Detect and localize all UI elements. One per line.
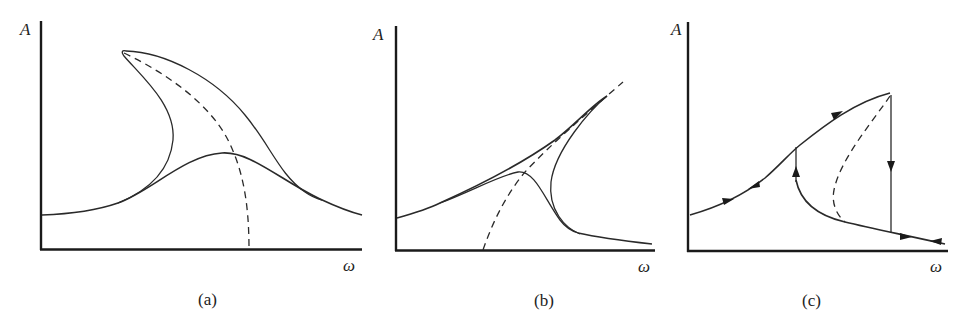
response-curve-inner-a [42, 153, 362, 215]
upper-branch-c [690, 93, 890, 215]
backbone-dashed-b [483, 82, 623, 250]
arrow-right-icon [722, 198, 734, 205]
y-axis-label-c: A [670, 20, 682, 39]
arrow-down-icon [887, 161, 895, 172]
panel-c: A ω (c) [670, 20, 948, 310]
response-loop-right-b [551, 96, 607, 234]
arrow-up-icon [792, 166, 800, 177]
caption-a: (a) [198, 290, 217, 309]
lower-branch-c [796, 180, 945, 244]
arrow-left-icon [930, 238, 942, 245]
arrow-right-icon [900, 233, 912, 240]
response-curve-upper-b [397, 96, 607, 218]
arrow-left-icon [748, 181, 760, 189]
response-loop-upper-a [126, 51, 322, 200]
backbone-dashed-a [124, 53, 249, 249]
y-axis-label-a: A [19, 20, 31, 39]
x-axis-label-c: ω [930, 257, 942, 276]
x-axis-label-b: ω [638, 257, 650, 276]
response-tail-b [578, 233, 652, 244]
response-curve-inner-b [440, 172, 578, 233]
panel-b: A ω (b) [372, 25, 655, 310]
y-axis-label-b: A [372, 25, 384, 44]
caption-b: (b) [534, 291, 554, 310]
panel-a: A ω (a) [19, 20, 362, 309]
response-loop-left-a [118, 51, 173, 203]
figure-canvas: A ω (a) A ω (b) [0, 0, 976, 336]
x-axis-label-a: ω [343, 256, 355, 275]
caption-c: (c) [802, 291, 821, 310]
